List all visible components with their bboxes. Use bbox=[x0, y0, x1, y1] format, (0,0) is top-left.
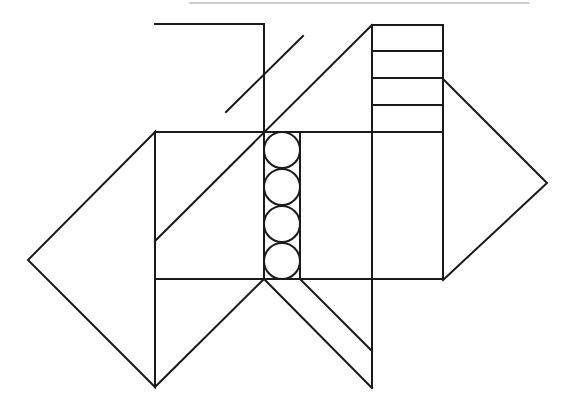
bottom-v bbox=[155, 279, 372, 388]
right-triangle bbox=[443, 79, 547, 280]
bottom-stripe bbox=[300, 279, 372, 351]
circle-4 bbox=[264, 243, 300, 279]
circle-1 bbox=[264, 132, 300, 168]
circle-2 bbox=[264, 169, 300, 205]
diagram-svg bbox=[0, 0, 576, 409]
circle-3 bbox=[264, 206, 300, 242]
top-left-bracket bbox=[155, 24, 264, 132]
left-triangle bbox=[28, 132, 155, 387]
geometric-diagram bbox=[0, 0, 576, 409]
